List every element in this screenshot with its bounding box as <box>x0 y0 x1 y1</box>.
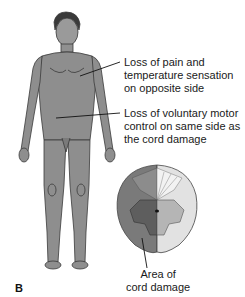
panel-letter: B <box>15 282 23 294</box>
annotation-cord-damage: Area of cord damage <box>126 268 190 294</box>
spinal-cord-damage-figure: Loss of pain and temperature sensation o… <box>0 0 245 297</box>
annotation-pain-temperature: Loss of pain and temperature sensation o… <box>124 56 233 95</box>
body-illustration <box>0 0 245 297</box>
spinal-cord-cross-section <box>117 165 197 268</box>
annotation-motor-control: Loss of voluntary motor control on same … <box>124 107 240 146</box>
human-figure <box>19 12 115 269</box>
